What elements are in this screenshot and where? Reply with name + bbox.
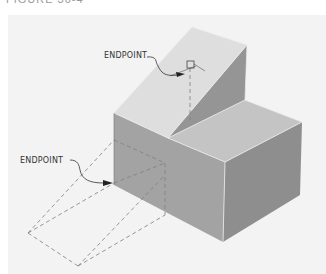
endpoint-label-bottom: ENDPOINT xyxy=(20,156,63,165)
isometric-drawing: ENDPOINT ENDPOINT xyxy=(0,0,326,274)
endpoint-label-top: ENDPOINT xyxy=(104,51,147,60)
